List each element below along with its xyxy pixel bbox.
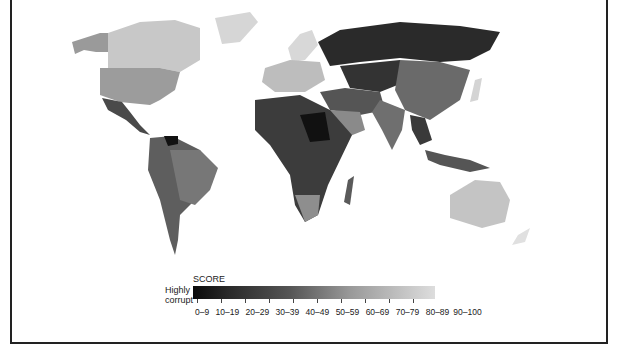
score-legend: SCORE Highly corrupt 0–9 10–19 20–29 30–…: [160, 272, 460, 322]
legend-range-label: 0–9: [195, 307, 209, 317]
region-new-zealand: [512, 228, 530, 245]
region-madagascar: [344, 176, 354, 205]
legend-gradient-bar: [193, 286, 435, 299]
region-china: [395, 60, 470, 120]
legend-range-label: 70–79: [396, 307, 420, 317]
legend-low-label-line1: Highly: [165, 285, 190, 295]
legend-tick: [293, 299, 294, 303]
region-scandinavia: [288, 30, 318, 62]
legend-tick: [245, 299, 246, 303]
region-usa: [100, 68, 180, 105]
legend-range-label: 60–69: [366, 307, 390, 317]
legend-low-label-line2: corrupt: [165, 295, 193, 305]
legend-tick: [389, 299, 390, 303]
legend-tick: [341, 299, 342, 303]
region-india: [372, 100, 405, 150]
legend-range-label: 10–19: [216, 307, 240, 317]
region-southeast-asia: [410, 115, 432, 145]
legend-tick: [413, 299, 414, 303]
legend-tick: [365, 299, 366, 303]
legend-ticks: [193, 299, 435, 303]
region-indonesia: [425, 150, 490, 172]
region-australia: [450, 180, 510, 228]
legend-range-labels: 0–9 10–19 20–29 30–39 40–49 50–59 60–69 …: [195, 307, 486, 317]
region-greenland: [215, 12, 258, 44]
legend-tick: [269, 299, 270, 303]
region-europe: [262, 60, 325, 92]
legend-range-label: 40–49: [306, 307, 330, 317]
legend-tick: [317, 299, 318, 303]
legend-range-label: 30–39: [276, 307, 300, 317]
legend-title: SCORE: [193, 274, 225, 284]
legend-tick: [197, 299, 198, 303]
legend-range-label: 20–29: [246, 307, 270, 317]
region-japan: [470, 78, 482, 102]
region-canada: [108, 20, 200, 72]
region-russia: [318, 22, 500, 66]
legend-range-label: 50–59: [336, 307, 360, 317]
legend-tick: [221, 299, 222, 303]
region-alaska: [72, 33, 108, 54]
legend-range-label: 80–89: [426, 307, 450, 317]
legend-range-label: 90–100: [453, 307, 481, 317]
